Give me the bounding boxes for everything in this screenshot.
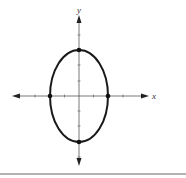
co-vertex-right: [106, 94, 111, 99]
x-axis-label: x: [151, 91, 156, 101]
y-axis-label: y: [76, 5, 81, 15]
y-axis-top-arrow-icon: [77, 15, 82, 23]
ellipse-graph: x y: [0, 0, 186, 178]
x-axis-left-arrow-icon: [12, 94, 20, 99]
y-axis-bottom-arrow-icon: [77, 158, 82, 166]
vertex-bottom: [77, 140, 82, 145]
vertex-top: [77, 48, 82, 53]
x-axis-right-arrow-icon: [141, 94, 149, 99]
co-vertex-left: [48, 94, 53, 99]
